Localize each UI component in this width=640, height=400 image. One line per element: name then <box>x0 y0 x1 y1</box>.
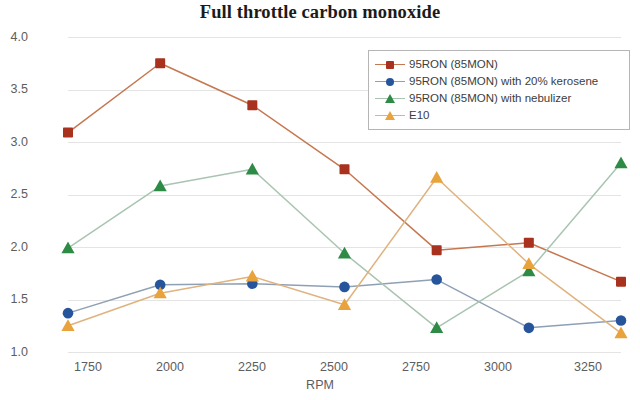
chart-figure: Full throttle carbon monoxide 4.0 3.5 3.… <box>0 0 640 400</box>
data-point-marker <box>247 100 257 110</box>
legend-item-label: 95RON (85MON) with 20% kerosene <box>409 76 598 88</box>
data-point-marker <box>340 164 350 174</box>
chart-title: Full throttle carbon monoxide <box>0 2 640 23</box>
data-point-marker <box>430 171 443 183</box>
legend-item[interactable]: E10 <box>375 107 623 124</box>
legend-marker <box>386 61 394 69</box>
data-point-marker <box>63 308 74 319</box>
legend-marker-triangle-icon <box>375 109 405 123</box>
y-tick-label: 1.0 <box>0 345 28 359</box>
legend-item[interactable]: 95RON (85MON) with nebulizer <box>375 90 623 107</box>
legend-marker-square-icon <box>375 58 405 72</box>
chart-legend: 95RON (85MON) 95RON (85MON) with 20% ker… <box>368 50 630 130</box>
data-point-marker <box>614 156 627 168</box>
y-tick-label: 3.0 <box>0 135 28 149</box>
x-tick-label: 1750 <box>53 360 123 374</box>
legend-item[interactable]: 95RON (85MON) <box>375 56 623 73</box>
legend-item-label: 95RON (85MON) <box>409 59 498 71</box>
legend-marker-circle-icon <box>375 75 405 89</box>
y-tick-label: 2.5 <box>0 187 28 201</box>
data-point-marker <box>155 58 165 68</box>
data-point-marker <box>246 270 259 282</box>
data-point-marker <box>524 323 535 334</box>
data-point-marker <box>432 245 442 255</box>
data-point-marker <box>616 315 627 326</box>
legend-item-label: E10 <box>409 110 429 122</box>
y-tick-label: 2.0 <box>0 240 28 254</box>
y-tick-label: 1.5 <box>0 292 28 306</box>
data-point-marker <box>61 319 74 331</box>
legend-marker-triangle-icon <box>375 92 405 106</box>
legend-item[interactable]: 95RON (85MON) with 20% kerosene <box>375 73 623 90</box>
x-axis-title: RPM <box>0 378 640 392</box>
data-point-marker <box>339 282 350 293</box>
data-point-marker <box>614 327 627 339</box>
data-point-marker <box>524 238 534 248</box>
x-tick-label: 3000 <box>463 360 533 374</box>
x-tick-label: 2000 <box>135 360 205 374</box>
legend-marker <box>385 111 395 120</box>
gridline <box>68 352 621 353</box>
data-point-marker <box>61 241 74 253</box>
data-point-marker <box>430 321 443 333</box>
y-tick-label: 3.5 <box>0 82 28 96</box>
data-point-marker <box>616 277 626 287</box>
legend-marker <box>386 78 394 86</box>
x-tick-label: 2750 <box>381 360 451 374</box>
x-tick-label: 2500 <box>299 360 369 374</box>
x-tick-label: 3250 <box>553 360 623 374</box>
data-point-marker <box>431 274 442 285</box>
legend-item-label: 95RON (85MON) with nebulizer <box>409 93 571 105</box>
data-point-marker <box>246 163 259 175</box>
data-point-marker <box>63 128 73 138</box>
y-tick-label: 4.0 <box>0 30 28 44</box>
x-tick-label: 2250 <box>217 360 287 374</box>
legend-marker <box>385 94 395 103</box>
